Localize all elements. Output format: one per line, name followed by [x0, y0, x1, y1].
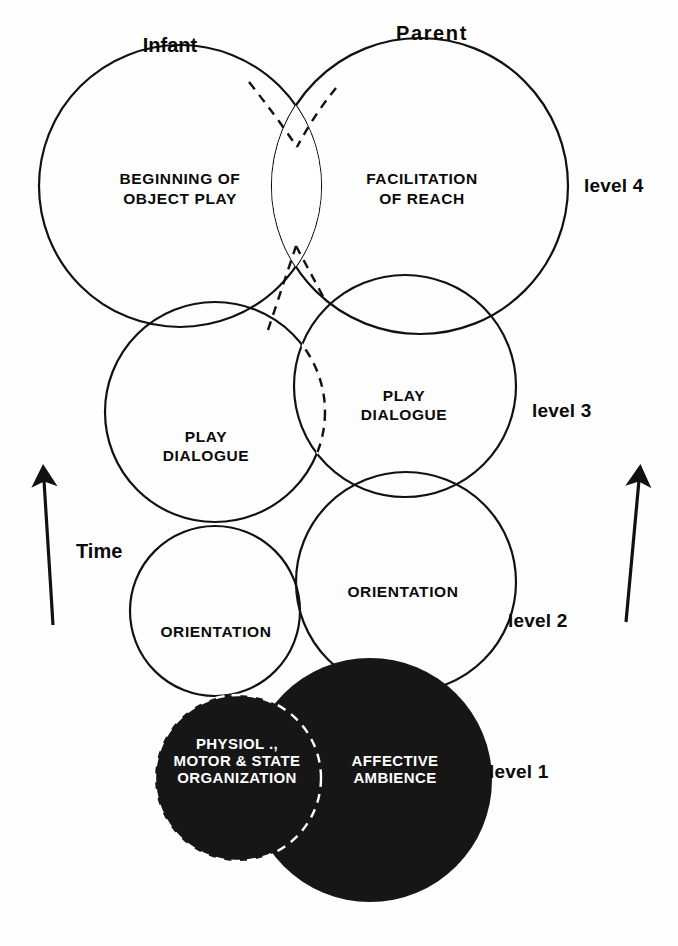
level1-infant-line3: ORGANIZATION [177, 769, 297, 786]
level2-parent-text: ORIENTATION [347, 583, 458, 600]
level2-side-label: level 2 [508, 610, 568, 631]
level1-parent-line1: AFFECTIVE [352, 752, 439, 769]
level3-infant-line1: PLAY [185, 428, 227, 445]
level1-infant-line2: MOTOR & STATE [174, 752, 301, 769]
levels-venn-diagram: BEGINNING OF OBJECT PLAY FACILITATION OF… [0, 0, 678, 946]
level2-parent-label: ORIENTATION [336, 578, 470, 604]
level1-side-label: level 1 [489, 761, 549, 782]
figure-canvas: BEGINNING OF OBJECT PLAY FACILITATION OF… [0, 0, 678, 946]
level1-parent-label: AFFECTIVE AMBIENCE [352, 752, 439, 786]
level3-parent-label: PLAY DIALOGUE [341, 384, 467, 426]
level3-infant-label: PLAY DIALOGUE [143, 425, 269, 467]
level3-parent-line2: DIALOGUE [361, 406, 448, 423]
level3-side-label: level 3 [532, 400, 592, 421]
level2-infant-label: ORIENTATION [152, 619, 280, 643]
level1-parent-line2: AMBIENCE [353, 769, 436, 786]
level3-infant-line2: DIALOGUE [163, 447, 250, 464]
level1-infant-line1: PHYSIOL ., [196, 735, 278, 752]
time-label: Time [76, 540, 122, 562]
level4-side-label: level 4 [584, 175, 644, 196]
level4-parent-line2: OF REACH [379, 190, 465, 207]
level2-infant-text: ORIENTATION [160, 623, 271, 640]
level4-infant-line1: BEGINNING OF [120, 170, 241, 187]
infant-title: Infant [143, 34, 198, 56]
level3-parent-line1: PLAY [383, 387, 425, 404]
parent-title: Parent [396, 22, 468, 44]
level4-infant-line2: OBJECT PLAY [123, 190, 237, 207]
level4-parent-line1: FACILITATION [366, 170, 478, 187]
